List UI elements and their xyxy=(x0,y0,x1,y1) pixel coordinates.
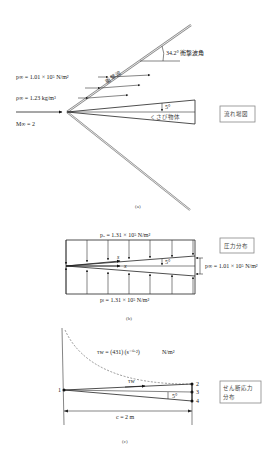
point-4-label: 4 xyxy=(196,398,199,404)
figure-c-caption: (c) xyxy=(122,439,128,444)
point-3-label: 3 xyxy=(196,389,199,395)
upper-pressure-envelope xyxy=(66,240,195,266)
freestream-mach: M∞ = 2 xyxy=(16,121,35,127)
freestream-density: ρ∞ = 1.23 kg/m³ xyxy=(16,95,56,101)
shock-angle-label: 34.2° 衝撃波角 xyxy=(166,49,204,57)
oblique-shock-wedge-diagram: 34.2° 衝撃波角 衝撃波 5° くさび物体 p∞ = 1.01 × 10⁵ … xyxy=(0,0,280,463)
figure-b-caption: (b) xyxy=(126,316,132,321)
shear-stress-box-label-2: 分布 xyxy=(223,393,235,401)
lower-pressure-envelope xyxy=(66,266,195,294)
lower-pressure-arrows xyxy=(66,268,193,294)
freestream-pressure: p∞ = 1.01 × 10⁵ N/m² xyxy=(16,74,69,80)
wedge-body-label: くさび物体 xyxy=(150,113,180,121)
pressure-distribution-box-label: 圧力分布 xyxy=(224,242,248,250)
figure-a-caption: (a) xyxy=(135,204,141,209)
wedge-angle-label: 5° xyxy=(172,393,178,399)
shear-stress-label: τw xyxy=(128,378,135,384)
shear-stress-unit: N/m² xyxy=(162,349,175,355)
figure-a-flow-field: 34.2° 衝撃波角 衝撃波 5° くさび物体 p∞ = 1.01 × 10⁵ … xyxy=(16,25,255,210)
shear-stress-arrow xyxy=(125,386,145,387)
flow-field-box-label: 流れ場図 xyxy=(224,110,248,118)
point-1-label: 1 xyxy=(58,387,61,393)
chord-length-label: c = 2 m xyxy=(116,414,135,420)
leading-edge-line xyxy=(62,328,64,425)
upper-pressure-label: pᵤ = 1.31 × 10⁵ N/m² xyxy=(100,232,150,238)
x-axis-label: x xyxy=(123,263,127,269)
point-1 xyxy=(63,389,66,392)
lower-pressure-label: pₗ = 1.31 × 10⁵ N/m² xyxy=(100,297,150,303)
upper-pressure-arrows xyxy=(66,240,193,264)
shear-stress-box-label-1: せん断応力 xyxy=(223,384,253,392)
wedge-angle-label: 5° xyxy=(165,259,171,265)
base-pressure-label: p∞ = 1.01 × 10⁵ N/m² xyxy=(205,263,258,269)
flow-arrow xyxy=(88,95,128,98)
point-2-label: 2 xyxy=(196,381,199,387)
wedge-angle-label: 5° xyxy=(165,104,171,110)
shear-stress-curve xyxy=(65,330,192,384)
shock-angle-arc xyxy=(162,46,164,61)
s-axis-label: s xyxy=(117,254,120,260)
s-axis-arrow xyxy=(66,261,120,266)
figure-b-pressure-distribution: s x 5° pᵤ = 1.31 × 10⁵ N/m² xyxy=(66,232,258,321)
figure-c-shear-stress-distribution: τw 5° 1 2 3 4 c = 2 m τw = (431) (s⁻⁰·²)… xyxy=(58,328,261,444)
shear-stress-formula: τw = (431) (s⁻⁰·²) xyxy=(97,349,140,356)
